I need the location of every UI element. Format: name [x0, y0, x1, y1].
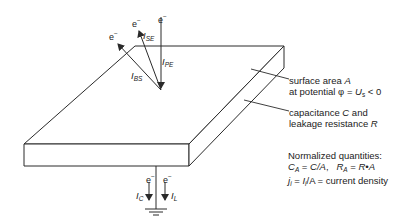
electron-charge: −: [163, 13, 167, 20]
current-subscript: PE: [165, 61, 174, 68]
annotation-surface-area: surface area A at potential φ = Us < 0: [289, 75, 381, 100]
normalized-line3: ji = Ii/A = current density: [288, 175, 388, 189]
annotation-surface-line2: at potential φ = Us < 0: [289, 86, 381, 100]
text: /A = current density: [307, 175, 389, 186]
current-subscript: C: [139, 195, 144, 202]
variable: A: [344, 75, 350, 86]
leader-capacitance: [244, 100, 289, 111]
text: =: [292, 175, 303, 186]
current-label-backscatter: IBS: [131, 70, 142, 84]
normalized-title: Normalized quantities:: [288, 150, 388, 161]
electron-charge: −: [168, 173, 172, 180]
current-subscript: SE: [146, 35, 155, 42]
text: < 0: [365, 86, 381, 97]
annotation-surface-line1: surface area A: [289, 75, 381, 86]
electron-label-leakage: e−: [163, 172, 172, 185]
current-label-capacitive: IC: [136, 190, 143, 204]
current-subscript: L: [174, 195, 178, 202]
current-label-leakage: IL: [171, 190, 177, 204]
variable: R: [371, 118, 378, 129]
electron-label-backscatter: e−: [109, 29, 118, 42]
variable: C: [288, 161, 295, 172]
electron-label-capacitive: e−: [146, 172, 155, 185]
variable: U: [355, 86, 362, 97]
expression: C/A: [310, 161, 326, 172]
electron-charge: −: [151, 173, 155, 180]
electron-label-primary: e−: [158, 12, 167, 25]
electron-charge: −: [114, 30, 118, 37]
text: ,: [326, 161, 337, 172]
annotation-capacitance: capacitance C and leakage resistance R: [289, 107, 378, 129]
normalized-line2: CA = C/A, RA = R•A: [288, 161, 388, 175]
text: leakage resistance: [289, 118, 371, 129]
text: and: [349, 107, 368, 118]
current-subscript: BS: [134, 75, 143, 82]
plate-front-face: [24, 144, 189, 166]
text: surface area: [289, 75, 344, 86]
plate: [24, 46, 284, 166]
electron-charge: −: [137, 17, 141, 24]
text: =: [348, 161, 359, 172]
text: capacitance: [289, 107, 342, 118]
current-label-primary: IPE: [162, 56, 173, 70]
current-label-secondary: ISE: [143, 30, 154, 44]
expression: R•A: [359, 161, 376, 172]
text: at potential φ =: [289, 86, 355, 97]
electron-label-secondary: e−: [132, 16, 141, 29]
annotation-capacitance-line1: capacitance C and: [289, 107, 378, 118]
annotation-capacitance-line2: leakage resistance R: [289, 118, 378, 129]
text: =: [299, 161, 310, 172]
annotation-normalized-quantities: Normalized quantities: CA = C/A, RA = R•…: [288, 150, 388, 189]
